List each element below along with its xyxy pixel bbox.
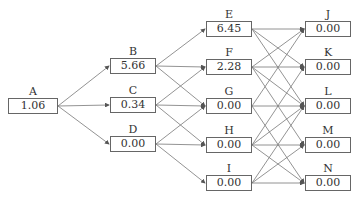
node-e: E 6.45 — [206, 9, 252, 37]
node-m: M 0.00 — [305, 125, 351, 153]
edge-H-L — [252, 106, 304, 145]
edge-A-D — [58, 106, 109, 144]
node-label: M — [305, 125, 351, 137]
edge-C-F — [156, 67, 205, 105]
node-n: N 0.00 — [305, 163, 351, 191]
node-l: L 0.00 — [305, 86, 351, 114]
node-h: H 0.00 — [206, 125, 252, 153]
node-k: K 0.00 — [305, 47, 351, 75]
node-value: 1.06 — [8, 98, 58, 114]
node-label: E — [206, 9, 252, 21]
node-value: 5.66 — [110, 58, 156, 74]
edge-D-G — [156, 106, 205, 144]
node-value: 0.00 — [305, 59, 351, 75]
node-label: J — [305, 9, 351, 21]
node-label: A — [8, 86, 58, 98]
node-value: 0.00 — [305, 21, 351, 37]
node-label: C — [110, 85, 156, 97]
node-label: H — [206, 125, 252, 137]
edge-A-C — [58, 105, 109, 106]
node-d: D 0.00 — [110, 124, 156, 152]
node-g: G 0.00 — [206, 86, 252, 114]
edge-D-I — [156, 144, 205, 183]
node-value: 0.00 — [305, 137, 351, 153]
node-value: 0.00 — [206, 175, 252, 191]
node-value: 6.45 — [206, 21, 252, 37]
node-a: A 1.06 — [8, 86, 58, 114]
node-label: F — [206, 47, 252, 59]
node-value: 0.00 — [305, 98, 351, 114]
edge-F-L — [252, 67, 304, 106]
node-label: G — [206, 86, 252, 98]
edge-B-E — [156, 29, 205, 66]
node-label: N — [305, 163, 351, 175]
node-j: J 0.00 — [305, 9, 351, 37]
node-value: 0.00 — [206, 137, 252, 153]
edge-D-H — [156, 144, 205, 145]
node-c: C 0.34 — [110, 85, 156, 113]
edge-A-B — [58, 66, 109, 106]
node-value: 2.28 — [206, 59, 252, 75]
node-b: B 5.66 — [110, 46, 156, 74]
node-label: B — [110, 46, 156, 58]
node-f: F 2.28 — [206, 47, 252, 75]
node-value: 0.00 — [110, 136, 156, 152]
node-label: L — [305, 86, 351, 98]
edge-B-F — [156, 66, 205, 67]
edge-C-G — [156, 105, 205, 106]
node-value: 0.34 — [110, 97, 156, 113]
node-i: I 0.00 — [206, 163, 252, 191]
node-label: I — [206, 163, 252, 175]
node-label: K — [305, 47, 351, 59]
node-value: 0.00 — [305, 175, 351, 191]
node-value: 0.00 — [206, 98, 252, 114]
node-label: D — [110, 124, 156, 136]
